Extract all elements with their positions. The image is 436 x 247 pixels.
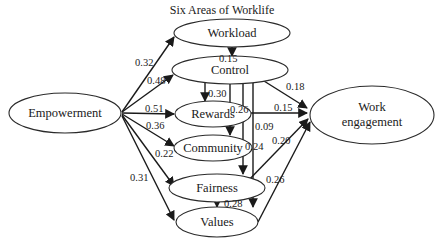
node-fairness: Fairness bbox=[169, 174, 265, 202]
coef-empowerment-fairness: 0.22 bbox=[155, 148, 173, 159]
path-diagram: Six Areas of Worklife Empowerment Worklo… bbox=[0, 0, 436, 247]
node-community: Community bbox=[174, 135, 252, 161]
edge-empowerment-values bbox=[122, 116, 174, 220]
coef-control-values: 0.09 bbox=[255, 121, 273, 132]
node-work-engagement-line2: engagement bbox=[342, 115, 403, 129]
node-fairness-label: Fairness bbox=[196, 181, 238, 195]
coef-rewards-engagement: 0.15 bbox=[274, 102, 292, 113]
node-workload-label: Workload bbox=[208, 26, 258, 40]
node-values-label: Values bbox=[200, 215, 233, 229]
coef-empowerment-community: 0.36 bbox=[146, 120, 164, 131]
node-community-label: Community bbox=[183, 141, 243, 155]
node-work-engagement: Work engagement bbox=[310, 86, 434, 144]
diagram-title: Six Areas of Worklife bbox=[170, 3, 274, 17]
coef-empowerment-workload: 0.32 bbox=[135, 57, 153, 68]
node-control-label: Control bbox=[211, 63, 250, 77]
coef-control-fairness: 0.24 bbox=[245, 141, 264, 152]
coef-empowerment-rewards: 0.51 bbox=[145, 103, 163, 114]
coef-values-engagement: 0.26 bbox=[266, 174, 284, 185]
coef-workload-control: 0.15 bbox=[219, 53, 237, 64]
coef-fairness-engagement: 0.20 bbox=[272, 135, 290, 146]
node-empowerment-label: Empowerment bbox=[28, 106, 102, 120]
node-work-engagement-line1: Work bbox=[358, 100, 386, 114]
coef-fairness-values: 0.28 bbox=[224, 198, 242, 209]
coef-empowerment-values: 0.31 bbox=[130, 172, 148, 183]
coef-empowerment-control: 0.48 bbox=[147, 75, 165, 86]
node-empowerment: Empowerment bbox=[9, 93, 121, 133]
node-workload: Workload bbox=[174, 19, 290, 47]
coef-control-engagement: 0.18 bbox=[286, 81, 304, 92]
coef-control-community: 0.26 bbox=[230, 104, 248, 115]
node-rewards-label: Rewards bbox=[191, 107, 235, 121]
node-values: Values bbox=[176, 207, 258, 237]
coef-control-rewards: 0.30 bbox=[208, 88, 226, 99]
